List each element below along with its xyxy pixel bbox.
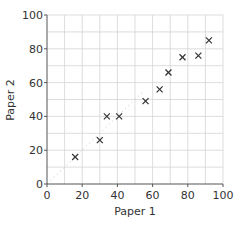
y-tick-label: 20 bbox=[29, 144, 43, 157]
x-marker-icon bbox=[206, 37, 212, 43]
tick-labels: 020406080100020406080100 bbox=[22, 9, 234, 202]
x-marker-icon bbox=[143, 98, 149, 104]
y-tick-label: 80 bbox=[29, 43, 43, 56]
x-tick-label: 40 bbox=[110, 189, 124, 202]
x-tick-label: 60 bbox=[146, 189, 160, 202]
x-marker-icon bbox=[157, 86, 163, 92]
x-marker-icon bbox=[195, 53, 201, 59]
y-tick-label: 60 bbox=[29, 77, 43, 90]
x-marker-icon bbox=[180, 54, 186, 60]
x-tick-label: 100 bbox=[213, 189, 234, 202]
x-marker-icon bbox=[72, 154, 78, 160]
x-tick-label: 80 bbox=[181, 189, 195, 202]
y-axis-label: Paper 2 bbox=[4, 79, 17, 121]
data-points bbox=[72, 37, 212, 160]
dashed-trend-line bbox=[47, 91, 144, 184]
y-tick-label: 40 bbox=[29, 110, 43, 123]
x-tick-label: 0 bbox=[44, 189, 51, 202]
x-axis-label: Paper 1 bbox=[114, 205, 156, 218]
y-tick-label: 100 bbox=[22, 9, 43, 22]
x-tick-label: 20 bbox=[75, 189, 89, 202]
trend-line bbox=[47, 91, 144, 184]
scatter-chart: 020406080100020406080100 Paper 1 Paper 2 bbox=[0, 0, 244, 225]
y-tick-label: 0 bbox=[36, 178, 43, 191]
